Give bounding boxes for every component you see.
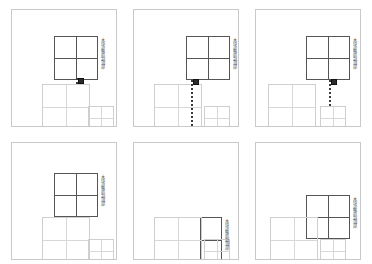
block-vline <box>66 218 67 259</box>
panel-stage: 木块被放到顶部 <box>12 10 116 126</box>
held-block-dark[interactable] <box>54 173 98 217</box>
base-block-large[interactable] <box>268 84 316 126</box>
panel-annotation-label: 木块被放到顶部 <box>352 38 356 69</box>
panel-annotation-label: 木块被放到顶部 <box>224 219 228 250</box>
panel-stage: 木块被放到顶部 <box>256 10 360 126</box>
drag-handle[interactable] <box>193 79 199 85</box>
base-block-large[interactable] <box>42 84 90 126</box>
block-vline <box>328 196 329 238</box>
drag-handle[interactable] <box>78 78 84 84</box>
base-block-small[interactable] <box>320 106 346 126</box>
panel-annotation-label: 木块被放到顶部 <box>100 175 104 206</box>
panel-5[interactable]: 木块被放到顶部 <box>133 142 239 260</box>
block-vline <box>294 218 295 259</box>
block-vline <box>217 240 218 259</box>
panel-stage: 木块被放到顶部 <box>12 143 116 259</box>
block-vline <box>328 37 329 79</box>
block-vline <box>178 218 179 259</box>
panel-2[interactable]: 木块被放到顶部 <box>133 9 239 127</box>
held-block-dark[interactable] <box>54 36 98 80</box>
panel-stage: 木块被放到顶部 <box>134 10 238 126</box>
panel-4[interactable]: 木块被放到顶部 <box>11 142 117 260</box>
held-block-dark[interactable] <box>186 36 230 80</box>
base-block-small[interactable] <box>88 239 114 259</box>
base-block-large[interactable] <box>154 84 202 126</box>
panel-stage: 木块被放到顶部 <box>256 143 360 259</box>
held-block-dark[interactable] <box>306 36 350 80</box>
block-vline <box>333 107 334 126</box>
base-block-small[interactable] <box>204 106 230 126</box>
base-block-small[interactable] <box>88 106 114 126</box>
drag-handle[interactable] <box>331 79 337 85</box>
panel-1[interactable]: 木块被放到顶部 <box>11 9 117 127</box>
block-vline <box>66 85 67 126</box>
base-block-large[interactable] <box>154 217 202 259</box>
base-block-large[interactable] <box>42 217 90 259</box>
block-vline <box>217 107 218 126</box>
base-block-large[interactable] <box>270 217 318 259</box>
panel-3[interactable]: 木块被放到顶部 <box>255 9 361 127</box>
panel-stage: 木块被放到顶部 <box>134 143 238 259</box>
block-vline <box>333 240 334 259</box>
panel-annotation-label: 木块被放到顶部 <box>232 38 236 69</box>
base-block-small[interactable] <box>320 239 346 259</box>
block-vline <box>292 85 293 126</box>
block-vline <box>101 107 102 126</box>
panel-annotation-label: 木块被放到顶部 <box>352 197 356 228</box>
block-vline <box>76 174 77 216</box>
block-vline <box>76 37 77 79</box>
block-vline <box>208 37 209 79</box>
drop-trajectory-line <box>191 80 193 126</box>
figure-sheet: 木块被放到顶部木块被放到顶部木块被放到顶部木块被放到顶部木块被放到顶部木块被放到… <box>0 0 372 264</box>
panel-annotation-label: 木块被放到顶部 <box>100 38 104 69</box>
block-vline <box>178 85 179 126</box>
panel-6[interactable]: 木块被放到顶部 <box>255 142 361 260</box>
block-vline <box>101 240 102 259</box>
